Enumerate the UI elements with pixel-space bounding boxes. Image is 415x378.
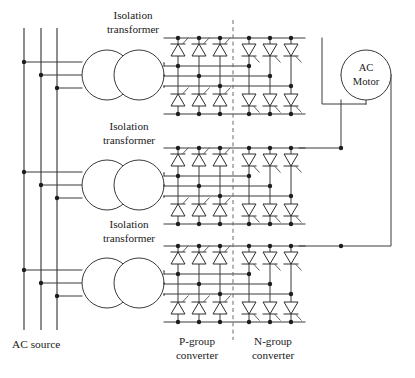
rail-node-bottom xyxy=(197,320,201,324)
thyristor-n-6-2 xyxy=(284,94,302,113)
converter-bank-phase-a xyxy=(164,36,305,116)
phase-feed-node-n-1 xyxy=(247,272,251,276)
ac-motor-circle xyxy=(341,50,391,100)
rail-node-top xyxy=(247,244,251,248)
transformer-label-line2: transformer xyxy=(103,134,155,146)
source-tap-wires xyxy=(24,62,82,296)
rail-node-top xyxy=(197,244,201,248)
thyristor-p-2-2 xyxy=(192,198,210,217)
thyristor-p-1-2 xyxy=(171,198,189,217)
source-tap-node-1-2 xyxy=(39,73,43,77)
thyristor-p-2-1 xyxy=(192,38,210,57)
source-tap-node-3-3 xyxy=(55,294,59,298)
motor-section: AC Motor xyxy=(299,38,391,248)
isolation-transformer-3: Isolationtransformer xyxy=(82,218,164,308)
phase-feed-node-p-3 xyxy=(218,194,222,198)
thyristor-p-2-1 xyxy=(192,246,210,265)
thyristor-p-1-2 xyxy=(171,88,189,107)
thyristor-n-5-1 xyxy=(263,44,281,63)
transformer-label-line2: transformer xyxy=(103,232,155,244)
thyristor-n-5-2 xyxy=(263,302,281,321)
rail-node-top xyxy=(197,146,201,150)
thyristor-p-3-2 xyxy=(213,88,231,107)
rail-node-bottom xyxy=(247,320,251,324)
phase-feed-node-p-2 xyxy=(197,184,201,188)
cycloconverter-circuit-diagram: AC source IsolationtransformerIsolationt… xyxy=(0,0,415,378)
rail-node-top xyxy=(289,146,293,150)
thyristor-n-6-2 xyxy=(284,302,302,321)
phase-feed-node-n-2 xyxy=(268,282,272,286)
thyristor-n-4-1 xyxy=(242,44,260,63)
thyristor-p-2-2 xyxy=(192,296,210,315)
thyristor-p-1-1 xyxy=(171,246,189,265)
thyristor-p-3-1 xyxy=(213,246,231,265)
thyristor-n-6-2 xyxy=(284,204,302,223)
thyristor-n-5-2 xyxy=(263,204,281,223)
rail-node-bottom xyxy=(268,320,272,324)
ac-source-section: AC source xyxy=(12,28,82,350)
thyristor-p-3-1 xyxy=(213,148,231,167)
rail-node-bottom xyxy=(197,112,201,116)
thyristor-p-2-1 xyxy=(192,148,210,167)
rail-node-bottom xyxy=(197,222,201,226)
thyristor-n-4-2 xyxy=(242,94,260,113)
rail-node-top xyxy=(176,244,180,248)
transformer-secondary-winding xyxy=(114,50,164,100)
rail-node-top xyxy=(268,146,272,150)
rail-node-bottom xyxy=(176,112,180,116)
phase-feed-node-n-3 xyxy=(289,292,293,296)
rail-node-bottom xyxy=(176,222,180,226)
rail-node-bottom xyxy=(247,222,251,226)
thyristor-array xyxy=(164,36,305,324)
rail-node-top xyxy=(218,244,222,248)
rail-node-top xyxy=(197,36,201,40)
ac-motor-label-line1: AC xyxy=(359,62,374,73)
rail-node-bottom xyxy=(247,112,251,116)
p-group-caption-line1: P-group xyxy=(179,335,215,347)
phase-feed-node-p-1 xyxy=(176,174,180,178)
source-tap-node-3-1 xyxy=(22,268,26,272)
transformer-label-line1: Isolation xyxy=(113,9,153,21)
thyristor-p-1-1 xyxy=(171,148,189,167)
p-group-caption-line2: converter xyxy=(176,349,219,361)
rail-node-top xyxy=(218,36,222,40)
thyristor-p-2-2 xyxy=(192,88,210,107)
thyristor-p-1-1 xyxy=(171,38,189,57)
rail-node-top xyxy=(247,36,251,40)
isolation-transformer-section: IsolationtransformerIsolationtransformer… xyxy=(82,9,164,308)
thyristor-p-3-1 xyxy=(213,38,231,57)
rail-node-top xyxy=(176,146,180,150)
ac-motor-label-line2: Motor xyxy=(353,76,380,87)
thyristor-n-5-1 xyxy=(263,154,281,173)
transformer-label-line1: Isolation xyxy=(109,120,149,132)
phase-feed-node-p-1 xyxy=(176,64,180,68)
source-tap-node-2-2 xyxy=(39,183,43,187)
source-tap-node-3-2 xyxy=(39,281,43,285)
thyristor-n-4-2 xyxy=(242,302,260,321)
phase-feed-node-n-3 xyxy=(289,84,293,88)
rail-node-top xyxy=(218,146,222,150)
thyristor-p-3-2 xyxy=(213,198,231,217)
source-tap-node-1-1 xyxy=(22,60,26,64)
thyristor-n-4-2 xyxy=(242,204,260,223)
rail-node-bottom xyxy=(218,222,222,226)
n-group-caption-line1: N-group xyxy=(254,335,292,347)
motor-lead-3 xyxy=(299,75,391,246)
transformer-secondary-winding xyxy=(114,258,164,308)
phase-feed-node-p-2 xyxy=(197,74,201,78)
transformer-secondary-winding xyxy=(114,160,164,210)
rail-node-bottom xyxy=(289,222,293,226)
rail-node-bottom xyxy=(218,320,222,324)
thyristor-n-6-1 xyxy=(284,252,302,271)
thyristor-p-1-2 xyxy=(171,296,189,315)
source-tap-node-2-1 xyxy=(22,170,26,174)
phase-feed-node-p-2 xyxy=(197,282,201,286)
rail-node-top xyxy=(247,146,251,150)
rail-node-top xyxy=(176,36,180,40)
isolation-transformer-2: Isolationtransformer xyxy=(82,120,164,210)
transformer-label-line2: transformer xyxy=(107,23,159,35)
converter-bank-phase-c xyxy=(164,244,305,324)
phase-feed-node-p-3 xyxy=(218,292,222,296)
cycloconverter-section xyxy=(164,20,305,340)
phase-feed-node-n-2 xyxy=(268,184,272,188)
